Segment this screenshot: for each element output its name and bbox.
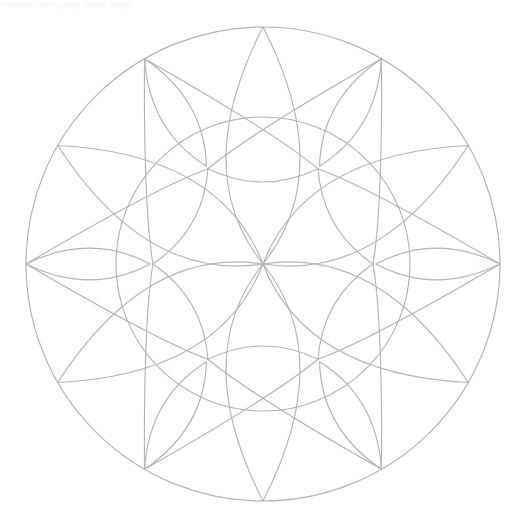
hub-arc bbox=[153, 169, 208, 264]
hub-arc bbox=[318, 169, 373, 264]
hub-arc bbox=[318, 264, 373, 359]
large-petal bbox=[226, 27, 300, 264]
large-petal bbox=[226, 264, 300, 501]
mandala-drawing bbox=[0, 0, 522, 529]
hub-arc bbox=[208, 346, 318, 359]
mandala-artboard: mandala coloring page outline design bbox=[0, 0, 522, 529]
hub-arc bbox=[208, 169, 318, 182]
hub-arc bbox=[153, 264, 208, 359]
